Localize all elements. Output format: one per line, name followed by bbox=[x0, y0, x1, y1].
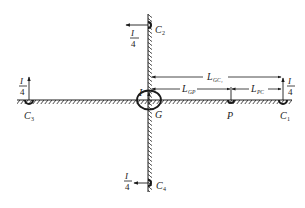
svg-text:C: C bbox=[280, 110, 287, 121]
electrode-c4: I 4 C 4 bbox=[124, 171, 166, 192]
svg-text:I: I bbox=[19, 76, 24, 86]
svg-text:C: C bbox=[156, 180, 163, 191]
electrode-c3: I 4 C 3 bbox=[19, 76, 34, 122]
svg-text:C: C bbox=[24, 110, 31, 121]
svg-text:I: I bbox=[287, 76, 292, 86]
label-g: G bbox=[155, 109, 162, 120]
svg-text:P: P bbox=[226, 110, 233, 121]
electrode-c1: I 4 C 1 bbox=[279, 76, 295, 122]
svg-text:4: 4 bbox=[288, 87, 293, 97]
svg-text:PC: PC bbox=[256, 89, 264, 95]
svg-text:1: 1 bbox=[287, 116, 290, 122]
svg-text:4: 4 bbox=[20, 87, 25, 97]
svg-text:L: L bbox=[206, 71, 213, 82]
svg-text:I: I bbox=[124, 171, 129, 181]
svg-text:GC₁: GC₁ bbox=[213, 77, 223, 83]
svg-text:4: 4 bbox=[125, 182, 130, 192]
horizontal-ground bbox=[17, 100, 292, 104]
svg-text:4: 4 bbox=[131, 39, 136, 49]
dimension-l-gc1: L GC₁ bbox=[152, 71, 281, 83]
svg-text:GP: GP bbox=[188, 89, 196, 95]
svg-text:L: L bbox=[250, 83, 257, 94]
svg-text:2: 2 bbox=[162, 30, 165, 36]
svg-text:I: I bbox=[130, 28, 135, 38]
svg-text:L: L bbox=[181, 83, 188, 94]
svg-text:3: 3 bbox=[31, 116, 34, 122]
dimension-l-pc: L PC bbox=[232, 83, 281, 95]
current-label-i: I bbox=[138, 87, 143, 98]
dimension-l-gp: L GP bbox=[152, 83, 230, 95]
electrode-c2: I 4 C 2 bbox=[126, 22, 165, 49]
grounding-diagram: I G I 4 C 2 I 4 C 4 I 4 C 3 I 4 C bbox=[0, 0, 305, 208]
svg-text:4: 4 bbox=[163, 186, 166, 192]
svg-text:C: C bbox=[155, 24, 162, 35]
